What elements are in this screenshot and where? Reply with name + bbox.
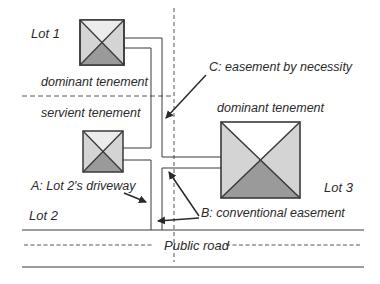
lot1-role-label: dominant tenement: [41, 75, 149, 89]
lot2-building-icon: [83, 131, 123, 172]
lot3-building-icon: [221, 122, 300, 198]
arrow-c: [166, 75, 206, 118]
lot1-building-icon: [80, 20, 124, 65]
arrow-b-lower: [158, 218, 199, 221]
easement-c-path: [123, 38, 221, 157]
annotation-a: A: Lot 2's driveway: [30, 179, 136, 193]
lot3-role-label: dominant tenement: [217, 101, 325, 115]
annotation-b: B: conventional easement: [201, 206, 345, 220]
lot2-label: Lot 2: [29, 208, 59, 223]
lot2-role-label: servient tenement: [41, 106, 141, 120]
easement-diagram: Lot 1 dominant tenement servient tenemen…: [0, 0, 380, 284]
road-label: Public road: [164, 238, 230, 253]
arrow-a: [124, 193, 146, 202]
lot3-label: Lot 3: [324, 180, 354, 195]
lot1-label: Lot 1: [31, 26, 60, 41]
annotation-c: C: easement by necessity: [209, 60, 353, 74]
